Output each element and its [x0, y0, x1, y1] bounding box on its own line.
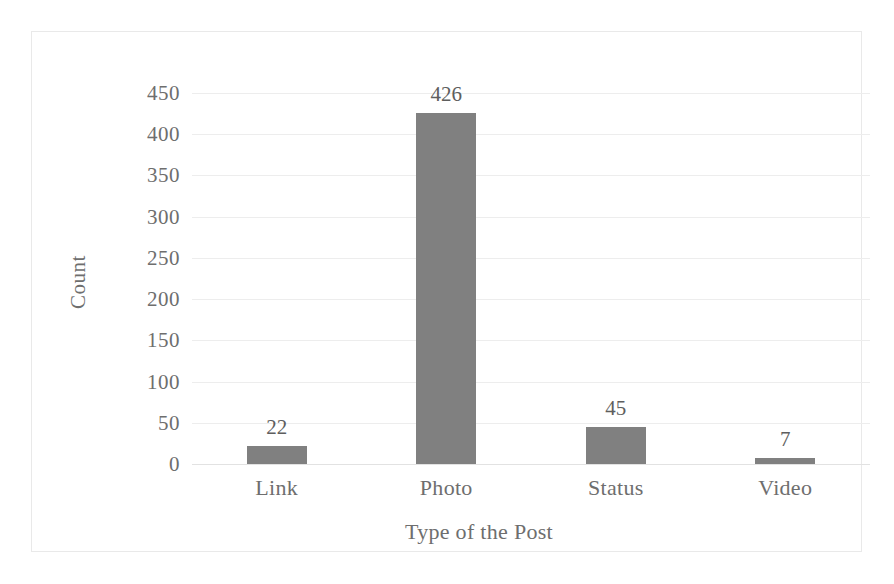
y-axis-tick-label: 250	[127, 247, 180, 268]
y-axis-tick-label: 200	[127, 289, 180, 310]
x-axis-tick-label: Link	[255, 475, 298, 501]
bar-value-label: 45	[605, 398, 626, 419]
bar-column[interactable]: 426	[362, 93, 532, 464]
bar[interactable]	[247, 446, 307, 464]
x-axis-tick-label: Photo	[420, 475, 473, 501]
bar-column[interactable]: 45	[531, 93, 701, 464]
y-axis-tick-label: 400	[127, 124, 180, 145]
y-axis-tick-label: 50	[127, 412, 180, 433]
axis-baseline	[192, 464, 870, 465]
y-axis-tick-label: 100	[127, 371, 180, 392]
bar[interactable]	[586, 427, 646, 464]
bar-value-label: 7	[780, 429, 791, 450]
x-axis-tick-label: Status	[588, 475, 644, 501]
bar-value-label: 426	[431, 84, 463, 105]
x-axis-tick-label: Video	[758, 475, 812, 501]
bar-column[interactable]: 7	[701, 93, 871, 464]
y-axis-tick-label: 350	[127, 165, 180, 186]
y-axis-title: Count	[66, 255, 91, 309]
y-axis-tick-labels: 450400350300250200150100500	[127, 93, 180, 464]
x-axis-title: Type of the Post	[405, 519, 553, 545]
bar-column[interactable]: 22	[192, 93, 362, 464]
x-axis-tick-labels: LinkPhotoStatusVideo	[192, 475, 870, 505]
chart-frame: Count 450400350300250200150100500 224264…	[31, 31, 862, 552]
y-axis-tick-label: 150	[127, 330, 180, 351]
y-axis-tick-label: 450	[127, 83, 180, 104]
bar-value-label: 22	[266, 417, 287, 438]
plot-area: 22426457	[192, 93, 870, 464]
bar[interactable]	[416, 113, 476, 464]
y-axis-tick-label: 0	[127, 454, 180, 475]
y-axis-tick-label: 300	[127, 206, 180, 227]
bar[interactable]	[755, 458, 815, 464]
